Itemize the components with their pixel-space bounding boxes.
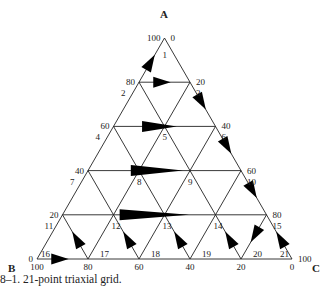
arrowhead-icon xyxy=(153,77,170,88)
point-label-9: 9 xyxy=(188,177,193,187)
point-label-2: 2 xyxy=(121,88,126,98)
point-label-17: 17 xyxy=(100,249,110,259)
arrowhead-icon xyxy=(141,55,154,73)
left-tick-label: 100 xyxy=(147,33,161,43)
point-label-16: 16 xyxy=(41,249,51,259)
bottom-tick-label: 60 xyxy=(135,262,145,272)
arrowhead-icon xyxy=(142,121,177,132)
arrows xyxy=(51,55,289,265)
arrowhead-icon xyxy=(51,254,68,265)
arrowhead-icon xyxy=(174,232,187,250)
point-label-13: 13 xyxy=(163,221,173,231)
vertex-label-a: A xyxy=(160,8,168,20)
bottom-tick-label: 20 xyxy=(237,262,247,272)
point-label-18: 18 xyxy=(151,249,161,259)
arrowhead-icon xyxy=(131,165,183,176)
point-label-14: 14 xyxy=(214,221,224,231)
point-label-19: 19 xyxy=(202,249,212,259)
tick-labels: 100806040200020406080100100806040200 xyxy=(29,33,313,272)
bottom-tick-label: 40 xyxy=(186,262,196,272)
vertex-label-c: C xyxy=(312,262,320,274)
point-label-11: 11 xyxy=(45,221,54,231)
point-label-6: 6 xyxy=(222,132,227,142)
arrowhead-icon xyxy=(276,232,289,250)
arrowhead-icon xyxy=(123,232,136,250)
point-label-7: 7 xyxy=(70,177,75,187)
arrowhead-icon xyxy=(251,224,264,242)
left-tick-label: 60 xyxy=(101,121,111,131)
arrowhead-icon xyxy=(225,232,238,250)
point-label-20: 20 xyxy=(253,249,263,259)
left-tick-label: 20 xyxy=(50,210,60,220)
bottom-tick-label: 100 xyxy=(30,262,44,272)
left-tick-label: 40 xyxy=(75,166,85,176)
point-label-15: 15 xyxy=(273,221,283,231)
point-label-1: 1 xyxy=(163,50,168,60)
point-label-8: 8 xyxy=(137,177,142,187)
left-tick-label: 80 xyxy=(126,77,136,87)
point-label-21: 21 xyxy=(280,249,289,259)
arrowhead-icon xyxy=(72,232,85,250)
point-label-5: 5 xyxy=(163,132,168,142)
right-tick-label: 100 xyxy=(298,254,312,264)
point-label-3: 3 xyxy=(196,88,201,98)
arrowhead-icon xyxy=(120,209,189,220)
point-label-4: 4 xyxy=(96,132,101,142)
right-tick-label: 60 xyxy=(247,166,257,176)
point-label-10: 10 xyxy=(247,177,257,187)
right-tick-label: 0 xyxy=(171,33,176,43)
right-tick-label: 40 xyxy=(222,121,232,131)
figure-caption: 8–1. 21-point triaxial grid. xyxy=(0,273,122,285)
bottom-tick-label: 0 xyxy=(290,262,295,272)
point-label-12: 12 xyxy=(112,221,121,231)
bottom-tick-label: 80 xyxy=(84,262,94,272)
right-tick-label: 20 xyxy=(196,77,206,87)
triaxial-grid-diagram: 100806040200020406080100100806040200 123… xyxy=(0,0,336,291)
right-tick-label: 80 xyxy=(273,210,283,220)
